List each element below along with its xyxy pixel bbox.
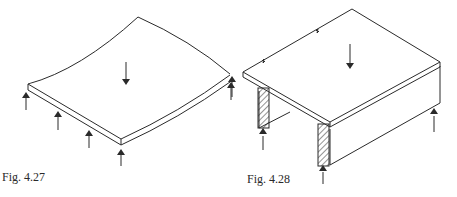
fig-4-28-drawing	[228, 9, 440, 184]
figure-caption: Fig. 4.27	[2, 170, 45, 185]
flat-slab	[243, 9, 440, 127]
diagram-drawing	[0, 0, 457, 197]
figure-caption: Fig. 4.28	[247, 172, 290, 187]
figure-page: Fig. 4.27 Fig. 4.28	[0, 0, 457, 197]
fig-4-27-drawing	[22, 17, 235, 166]
